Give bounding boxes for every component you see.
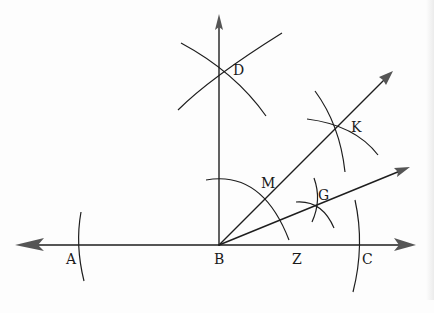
label-K: K: [351, 119, 362, 135]
arc-C: [353, 200, 360, 292]
label-D: D: [233, 62, 244, 78]
arc-D-upper: [178, 33, 282, 110]
ray-BK: [219, 71, 393, 245]
arc-A: [79, 212, 84, 281]
diagram-page: D K M G A B Z C: [0, 0, 434, 313]
line-AC: [15, 238, 416, 251]
arc-D-lower: [181, 43, 266, 116]
label-M: M: [261, 175, 275, 191]
label-Z: Z: [292, 251, 302, 267]
label-B: B: [214, 251, 224, 267]
arc-K-1: [315, 91, 345, 172]
arc-G-1: [312, 178, 318, 222]
label-A: A: [65, 251, 77, 267]
label-G: G: [318, 187, 329, 203]
label-C: C: [362, 251, 373, 267]
geometric-construction-diagram: D K M G A B Z C: [0, 0, 434, 313]
arc-K-2: [307, 119, 378, 155]
ray-BD: [215, 14, 223, 245]
